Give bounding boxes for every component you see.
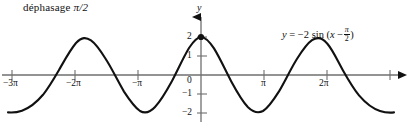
y-tick-label-neg-1: −1 [182,89,192,99]
y-axis [197,17,207,122]
x-tick-label-neg-pi: −π [132,79,142,89]
x-tick-label-neg-3pi: −3π [3,79,18,89]
y-axis-name-label: y [197,3,201,13]
equation-lhs: y [282,29,287,40]
y-tick-label-1: 1 [187,51,192,61]
equation-rhs-lead: −2 sin ( [298,29,330,40]
equation-equals: = [289,29,295,40]
equation-fraction: π2 [344,26,350,44]
equation-rhs-tail: ) [350,29,354,40]
caption-value: π/2 [74,1,89,13]
equation-minus: − [337,29,343,40]
peak-marker-origin [198,34,204,40]
trigonometric-graph-figure: déphasage π/2 y = −2 sin (x −π2) y −3π −… [0,0,411,129]
y-tick-label-neg-2: −2 [182,108,192,118]
equation-variable: x [330,29,335,40]
x-tick-label-neg-2pi: −2π [66,79,81,89]
fraction-denominator: 2 [344,35,350,43]
x-axis [2,70,398,80]
x-tick-label-2pi: 2π [319,79,329,89]
figure-caption: déphasage π/2 [23,2,88,13]
equation-label: y = −2 sin (x −π2) [282,26,354,44]
y-tick-label-2: 2 [187,32,192,42]
y-tick-label-0: 0 [187,76,192,86]
x-tick-label-pi: π [261,79,266,89]
caption-text: déphasage [23,1,74,13]
plot-area [0,0,411,129]
